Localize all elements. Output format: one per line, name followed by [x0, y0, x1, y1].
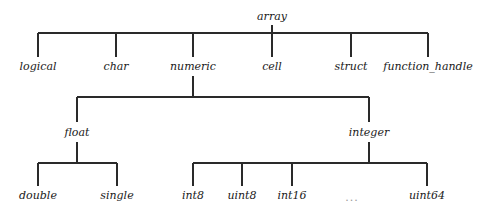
- node-double: double: [19, 189, 57, 202]
- connectors-array: [38, 25, 428, 57]
- node-uint8: uint8: [227, 189, 256, 202]
- node-logical: logical: [20, 60, 57, 73]
- connectors-float: [38, 142, 117, 186]
- node-int8: int8: [182, 189, 204, 202]
- node-uint64: uint64: [409, 189, 445, 202]
- node-array: array: [257, 10, 288, 23]
- node-labels: array logical char numeric cell struct f…: [19, 10, 473, 204]
- connectors-integer: [193, 142, 427, 186]
- node-int16: int16: [277, 189, 306, 202]
- node-numeric: numeric: [170, 60, 216, 73]
- node-cell: cell: [262, 60, 282, 73]
- node-ellipsis: ...: [345, 191, 359, 204]
- node-float: float: [64, 126, 91, 139]
- node-single: single: [100, 189, 134, 202]
- connectors-numeric: [77, 76, 369, 122]
- node-struct: struct: [335, 60, 369, 73]
- node-function-handle: function_handle: [382, 60, 473, 73]
- node-char: char: [103, 60, 129, 73]
- node-integer: integer: [349, 126, 390, 139]
- class-hierarchy-tree: array logical char numeric cell struct f…: [0, 0, 486, 213]
